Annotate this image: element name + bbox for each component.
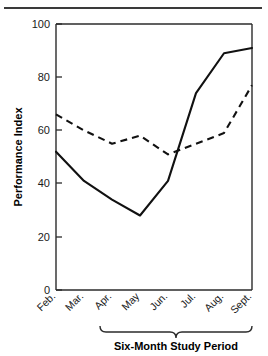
chart-canvas: 100 80 60 40 20 0 Performance Index Feb.… — [0, 0, 268, 356]
y-tick-label-20: 20 — [38, 231, 50, 243]
y-tick-label-100: 100 — [32, 18, 50, 30]
y-tick-label-80: 80 — [38, 71, 50, 83]
solid-series-line — [56, 48, 252, 216]
y-tick-label-40: 40 — [38, 177, 50, 189]
x-tick-label-aug: Aug. — [202, 290, 226, 314]
study-period-brace — [100, 326, 252, 338]
dashed-series-line — [56, 85, 252, 154]
x-axis-tick-labels: Feb. Mar. Apr. May Jun. Jul. Aug. Sept. — [34, 289, 253, 315]
x-tick-label-may: May — [119, 289, 142, 312]
x-tick-label-apr: Apr. — [92, 290, 114, 312]
x-tick-label-mar: Mar. — [62, 290, 85, 313]
x-tick-label-jun: Jun. — [147, 290, 170, 313]
y-axis-title: Performance Index — [12, 107, 24, 207]
x-tick-label-sept: Sept. — [228, 290, 254, 316]
x-axis-title: Six-Month Study Period — [114, 340, 238, 352]
x-tick-label-feb: Feb. — [34, 290, 57, 313]
x-tick-label-jul: Jul. — [177, 290, 197, 310]
performance-index-line-chart: 100 80 60 40 20 0 Performance Index Feb.… — [0, 0, 268, 356]
y-tick-label-60: 60 — [38, 124, 50, 136]
